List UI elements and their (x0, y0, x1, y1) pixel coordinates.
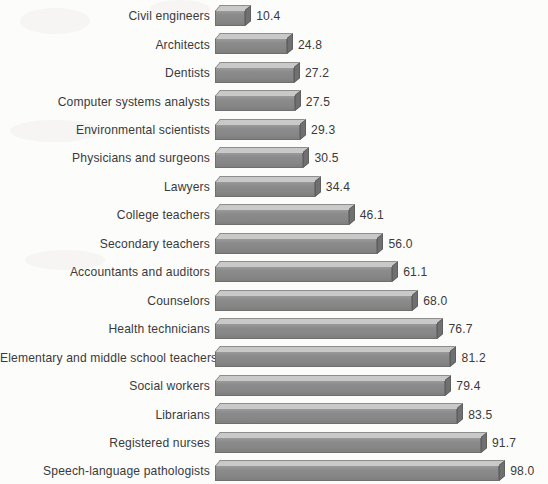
bar-front-face (215, 351, 450, 367)
bar-row: Elementary and middle school teachers81.… (0, 343, 548, 371)
category-label: Librarians (0, 408, 210, 422)
bar-row: Speech-language pathologists98.0 (0, 457, 548, 484)
bar-row: Social workers79.4 (0, 372, 548, 400)
bar-top-face (215, 460, 504, 466)
category-label: College teachers (0, 208, 210, 222)
bar-side-face (450, 346, 456, 367)
value-label: 76.7 (448, 322, 472, 336)
bar-side-face (392, 261, 398, 282)
bar-top-face (215, 233, 382, 239)
bar (215, 90, 301, 112)
bar-row: Civil engineers10.4 (0, 2, 548, 30)
bar-row: Environmental scientists29.3 (0, 116, 548, 144)
value-label: 98.0 (510, 464, 534, 478)
bar (215, 233, 383, 255)
bar (215, 346, 456, 368)
bar-front-face (215, 323, 437, 339)
value-label: 30.5 (314, 151, 338, 165)
bar-top-face (215, 432, 486, 438)
bar-side-face (245, 5, 251, 26)
bar (215, 261, 398, 283)
bar-row: Lawyers34.4 (0, 173, 548, 201)
bar-front-face (215, 67, 294, 83)
bar-front-face (215, 124, 300, 140)
category-label: Counselors (0, 294, 210, 308)
category-label: Dentists (0, 66, 210, 80)
bar-side-face (412, 289, 418, 310)
bar-front-face (215, 152, 303, 168)
category-label: Civil engineers (0, 9, 210, 23)
bar-side-face (294, 62, 300, 83)
bar-front-face (215, 380, 445, 396)
bar-front-face (215, 238, 377, 254)
value-label: 24.8 (298, 38, 322, 52)
bar-side-face (481, 432, 487, 453)
bar-top-face (215, 176, 320, 182)
bar-front-face (215, 181, 315, 197)
category-label: Physicians and surgeons (0, 151, 210, 165)
bar-front-face (215, 437, 481, 453)
category-label: Health technicians (0, 322, 210, 336)
value-label: 56.0 (388, 237, 412, 251)
bar (215, 62, 300, 84)
value-label: 68.0 (423, 294, 447, 308)
bar (215, 290, 418, 312)
bar-row: Health technicians76.7 (0, 315, 548, 343)
bar-row: Librarians83.5 (0, 400, 548, 428)
bar-row: Registered nurses91.7 (0, 429, 548, 457)
category-label: Secondary teachers (0, 237, 210, 251)
bar-front-face (215, 95, 295, 111)
category-label: Speech-language pathologists (0, 464, 210, 478)
category-label: Computer systems analysts (0, 95, 210, 109)
bar-front-face (215, 10, 245, 26)
bar (215, 147, 309, 169)
bar (215, 33, 293, 55)
bar-front-face (215, 38, 287, 54)
bar (215, 176, 321, 198)
bar-side-face (295, 90, 301, 111)
bar-row: Architects24.8 (0, 30, 548, 58)
bar-side-face (303, 147, 309, 168)
bar (215, 460, 505, 482)
bar-front-face (215, 295, 412, 311)
bar-top-face (215, 318, 442, 324)
category-label: Lawyers (0, 180, 210, 194)
value-label: 27.2 (305, 66, 329, 80)
category-label: Elementary and middle school teachers (0, 351, 210, 365)
bar (215, 432, 487, 454)
bar-top-face (215, 375, 450, 381)
bar-rows-container: Civil engineers10.4Architects24.8Dentist… (0, 0, 548, 484)
value-label: 34.4 (326, 180, 350, 194)
category-label: Social workers (0, 379, 210, 393)
bar-chart: Civil engineers10.4Architects24.8Dentist… (0, 0, 548, 484)
category-label: Accountants and auditors (0, 265, 210, 279)
value-label: 29.3 (311, 123, 335, 137)
value-label: 83.5 (468, 408, 492, 422)
bar (215, 375, 451, 397)
bar-front-face (215, 408, 457, 424)
value-label: 79.4 (456, 379, 480, 393)
bar-side-face (437, 318, 443, 339)
bar-top-face (215, 147, 308, 153)
bar-side-face (349, 204, 355, 225)
bar (215, 204, 355, 226)
bar-top-face (215, 204, 354, 210)
bar-front-face (215, 266, 392, 282)
bar-top-face (215, 290, 417, 296)
bar-top-face (215, 33, 292, 39)
bar-side-face (499, 460, 505, 481)
value-label: 27.5 (306, 95, 330, 109)
bar-top-face (215, 403, 462, 409)
category-label: Registered nurses (0, 436, 210, 450)
bar-row: Dentists27.2 (0, 59, 548, 87)
bar-row: Counselors68.0 (0, 287, 548, 315)
bar-top-face (215, 346, 456, 352)
value-label: 10.4 (256, 9, 280, 23)
bar-side-face (315, 176, 321, 197)
category-label: Architects (0, 38, 210, 52)
bar-row: Secondary teachers56.0 (0, 230, 548, 258)
category-label: Environmental scientists (0, 123, 210, 137)
bar-row: Accountants and auditors61.1 (0, 258, 548, 286)
bar-row: College teachers46.1 (0, 201, 548, 229)
value-label: 81.2 (461, 351, 485, 365)
